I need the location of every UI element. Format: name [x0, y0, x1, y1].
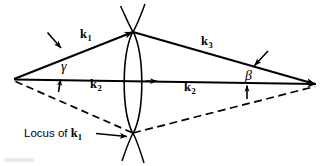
- k2-right-label-sub: 2: [191, 86, 195, 96]
- k2-right-label-base: k: [184, 80, 191, 94]
- lens-locus-shape: [124, 31, 142, 134]
- gamma-angle-arrow-icon: [59, 80, 61, 93]
- k2-left-label-sub: 2: [97, 83, 101, 93]
- beta-label: β: [245, 69, 252, 83]
- k1-label: k1: [80, 28, 91, 41]
- lens-tail-bottom-left: [122, 133, 133, 161]
- k2-left-label: k2: [90, 78, 101, 91]
- locus-caption-k: k: [71, 126, 78, 140]
- locus-caption-sub: 1: [78, 132, 82, 142]
- k3-label: k3: [201, 35, 212, 48]
- locus-caption-arrow-icon: [96, 134, 127, 137]
- vector-diagram-svg: [0, 0, 327, 166]
- lens-tail-bottom-right: [133, 133, 144, 163]
- wavevector-triangle: [14, 32, 315, 84]
- lens-arc-tails-bottom: [122, 133, 144, 163]
- figure-container: k1 k3 k2 k2 γ β Locus of k1: [0, 0, 327, 166]
- k3-pointer-arrow-icon: [255, 51, 269, 66]
- dashed-locus-parallelogram: [16, 82, 316, 134]
- k3-label-base: k: [201, 34, 208, 48]
- lens-arc-right: [133, 31, 142, 134]
- locus-caption-prefix: Locus of: [24, 127, 71, 139]
- lens-tail-top-right: [133, 4, 145, 32]
- k3-vector-line: [133, 32, 315, 84]
- k2-right-label: k2: [184, 81, 195, 94]
- lens-arc-left: [124, 31, 133, 134]
- lens-tail-top-left: [121, 6, 134, 32]
- locus-caption: Locus of k1: [24, 127, 82, 140]
- scan-artifact: [4, 158, 34, 162]
- dashed-line-right: [133, 87, 315, 134]
- k1-pointer-arrow-icon: [48, 33, 62, 49]
- lens-arc-tails-top: [121, 4, 146, 32]
- k1-label-base: k: [80, 27, 87, 41]
- k1-label-sub: 1: [87, 33, 91, 43]
- k3-label-sub: 3: [208, 40, 212, 50]
- gamma-label: γ: [61, 60, 67, 74]
- k1-vector-line: [14, 32, 133, 79]
- k2-left-label-base: k: [90, 77, 97, 91]
